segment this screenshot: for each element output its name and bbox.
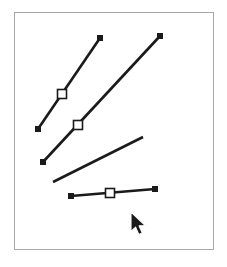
cursor-arrow-icon [131,212,145,234]
handle-group[interactable] [35,33,163,199]
line-segment-4-midpoint-handle[interactable] [106,189,115,198]
line-segment-1[interactable] [38,38,100,129]
shape-group[interactable] [38,36,160,196]
line-segment-3[interactable] [53,137,143,182]
line-segment-1-midpoint-handle[interactable] [58,90,67,99]
line-segment-1-endpoint-start[interactable] [35,126,41,132]
line-segment-2-endpoint-end[interactable] [157,33,163,39]
mouse-pointer [131,212,145,234]
line-segment-4-endpoint-start[interactable] [68,193,74,199]
cursor-group [131,212,145,234]
line-segment-1-endpoint-end[interactable] [97,35,103,41]
line-segment-2-endpoint-start[interactable] [40,159,46,165]
vector-shapes-layer[interactable] [0,0,227,267]
line-segment-2-midpoint-handle[interactable] [74,121,83,130]
line-segment-4-endpoint-end[interactable] [152,186,158,192]
drawing-canvas[interactable] [0,0,227,267]
